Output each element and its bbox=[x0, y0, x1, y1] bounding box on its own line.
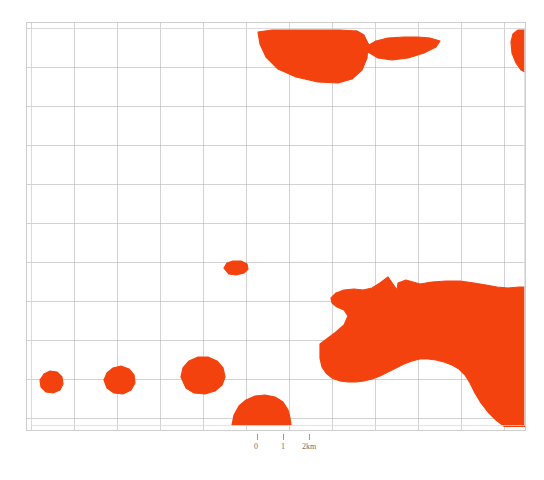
scale-tick-0 bbox=[257, 434, 258, 440]
scale-label-middle: 1 bbox=[281, 442, 285, 452]
scale-bar-ticks bbox=[252, 434, 324, 442]
scale-label-end: 2km bbox=[302, 442, 316, 452]
region-mid-small-ellipse[interactable] bbox=[224, 261, 248, 275]
scale-tick-2 bbox=[309, 434, 310, 440]
scale-tick-1 bbox=[283, 434, 284, 440]
scale-bar-labels: 0 1 2km bbox=[252, 442, 324, 456]
region-southwest-blob-a[interactable] bbox=[40, 371, 63, 393]
map-canvas[interactable] bbox=[0, 0, 544, 480]
scale-bar: 0 1 2km bbox=[252, 434, 324, 458]
scale-label-start: 0 bbox=[254, 442, 258, 452]
map-figure: 0 1 2km bbox=[0, 0, 544, 480]
region-southwest-blob-c[interactable] bbox=[181, 357, 225, 394]
